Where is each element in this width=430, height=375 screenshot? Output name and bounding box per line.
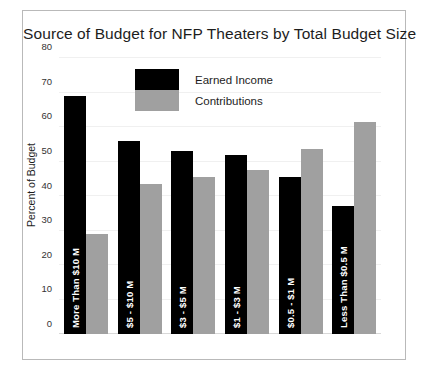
y-axis-tick-label: 40 xyxy=(41,179,52,190)
bar-contributions[interactable] xyxy=(86,234,108,334)
category-label: Less Than $0.5 M xyxy=(338,246,349,328)
category-label: $0.5 - $1 M xyxy=(284,278,295,328)
y-axis-tick-label: 60 xyxy=(41,110,52,121)
bar-contributions[interactable] xyxy=(354,122,376,334)
y-axis-tick-label: 80 xyxy=(41,41,52,52)
bar-earned-income[interactable]: Less Than $0.5 M xyxy=(332,206,354,334)
legend-item[interactable]: Earned Income xyxy=(135,69,273,90)
legend-label: Contributions xyxy=(195,95,263,107)
chart-legend: Earned IncomeContributions xyxy=(135,69,273,111)
bar-earned-income[interactable]: $0.5 - $1 M xyxy=(279,177,301,334)
bar-group: $0.5 - $1 M xyxy=(279,58,323,334)
bar-earned-income[interactable]: $5 - $10 M xyxy=(118,141,140,334)
y-axis-tick-label: 20 xyxy=(41,248,52,259)
bar-earned-income[interactable]: $3 - $5 M xyxy=(171,151,193,334)
legend-label: Earned Income xyxy=(195,74,273,86)
bar-contributions[interactable] xyxy=(140,184,162,334)
category-label: $3 - $5 M xyxy=(177,286,188,328)
bar-earned-income[interactable]: $1 - $3 M xyxy=(225,155,247,334)
category-label: $1 - $3 M xyxy=(230,286,241,328)
y-axis-tick-label: 0 xyxy=(47,318,52,329)
bar-group: More Than $10 M xyxy=(64,58,108,334)
legend-item[interactable]: Contributions xyxy=(135,90,273,111)
legend-swatch-earned-income xyxy=(135,69,179,90)
chart-container: Source of Budget for NFP Theaters by Tot… xyxy=(22,10,406,360)
y-axis-title: Percent of Budget xyxy=(25,143,37,227)
category-label: More Than $10 M xyxy=(69,248,80,328)
chart-title: Source of Budget for NFP Theaters by Tot… xyxy=(23,25,405,43)
bar-contributions[interactable] xyxy=(301,149,323,334)
bar-contributions[interactable] xyxy=(247,170,269,334)
y-axis-tick-label: 50 xyxy=(41,144,52,155)
bar-contributions[interactable] xyxy=(193,177,215,334)
category-label: $5 - $10 M xyxy=(123,281,134,328)
legend-swatch-contributions xyxy=(135,90,179,111)
y-axis-tick-label: 10 xyxy=(41,283,52,294)
bar-earned-income[interactable]: More Than $10 M xyxy=(64,96,86,334)
y-axis-tick-label: 70 xyxy=(41,75,52,86)
y-axis-tick-label: 30 xyxy=(41,214,52,225)
bar-group: Less Than $0.5 M xyxy=(332,58,376,334)
